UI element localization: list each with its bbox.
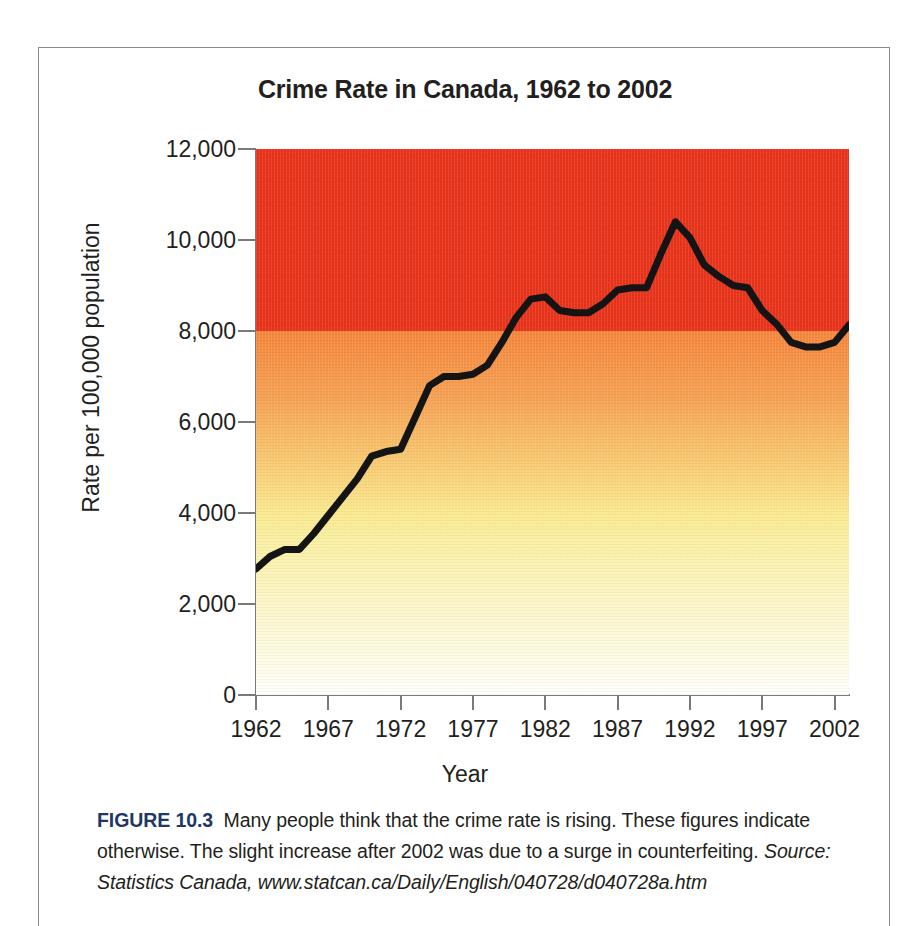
x-axis-tick-label: 2002 (780, 716, 890, 743)
y-axis-tick (238, 239, 256, 241)
y-axis-title: Rate per 100,000 population (78, 133, 105, 603)
y-axis-tick (238, 603, 256, 605)
y-axis-tick-label: 0 (76, 682, 236, 709)
x-axis-tick (544, 695, 546, 710)
x-axis-tick (834, 695, 836, 710)
x-axis-tick (472, 695, 474, 710)
plot-area (256, 149, 849, 695)
figure-caption-label: FIGURE 10.3 (97, 809, 213, 831)
x-axis-tick (689, 695, 691, 710)
crime-rate-line-series (256, 149, 849, 695)
figure-caption: FIGURE 10.3 Many people think that the c… (97, 805, 847, 898)
y-axis-tick (238, 512, 256, 514)
x-axis-title: Year (39, 761, 891, 788)
y-axis-tick (238, 148, 256, 150)
series-polyline (256, 222, 849, 569)
figure-frame: Crime Rate in Canada, 1962 to 2002 02,00… (38, 47, 890, 926)
x-axis-tick (761, 695, 763, 710)
y-axis-tick (238, 421, 256, 423)
y-axis-tick (238, 330, 256, 332)
y-axis-tick (238, 694, 256, 696)
x-axis-tick (255, 695, 257, 710)
x-axis-tick (400, 695, 402, 710)
x-axis-tick (617, 695, 619, 710)
x-axis-tick (327, 695, 329, 710)
